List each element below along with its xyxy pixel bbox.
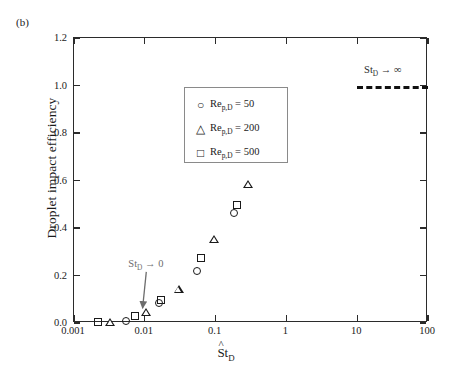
x-tick-mark bbox=[427, 315, 428, 321]
asymptote-dashed-line bbox=[357, 86, 428, 89]
legend-label-sub: p,D bbox=[222, 103, 233, 112]
x-axis-label-hat-accent: ^ bbox=[218, 338, 223, 350]
data-point-triangle bbox=[141, 308, 151, 316]
y-tick-mark bbox=[74, 227, 80, 228]
x-tick-label: 10 bbox=[351, 325, 362, 336]
annotation-zero-tail: → 0 bbox=[142, 258, 163, 269]
x-tick-label: 1 bbox=[283, 325, 288, 336]
x-tick-label: 100 bbox=[419, 325, 435, 336]
y-tick-mark bbox=[74, 180, 80, 181]
y-tick-label: 0.4 bbox=[37, 222, 67, 233]
y-tick-mark-right bbox=[420, 37, 426, 38]
x-tick-label: 0.1 bbox=[208, 325, 221, 336]
y-tick-mark bbox=[74, 322, 80, 323]
data-point-triangle bbox=[174, 285, 184, 293]
x-tick-mark-top bbox=[144, 38, 145, 44]
data-point-triangle bbox=[209, 235, 219, 243]
legend-marker-square-icon: □ bbox=[195, 147, 206, 159]
x-tick-mark bbox=[73, 315, 74, 321]
legend-label: Rep,D = 500 bbox=[210, 146, 259, 160]
data-point-triangle bbox=[243, 180, 253, 188]
x-tick-mark bbox=[357, 315, 358, 321]
annotation-inf-tail: → ∞ bbox=[378, 64, 401, 75]
y-tick-mark-right bbox=[420, 227, 426, 228]
legend-label-tail: = 50 bbox=[232, 98, 254, 109]
x-tick-mark-top bbox=[286, 38, 287, 44]
data-point-triangle bbox=[105, 318, 115, 326]
x-tick-mark bbox=[144, 315, 145, 321]
x-tick-mark bbox=[215, 315, 216, 321]
panel-label: (b) bbox=[16, 16, 29, 28]
legend-item-triangle: △Rep,D = 200 bbox=[195, 122, 259, 136]
legend-label-main: Re bbox=[210, 122, 222, 133]
annotation-inf-main: St bbox=[364, 64, 373, 75]
y-tick-label: 0.0 bbox=[37, 317, 67, 328]
x-axis-label: StD^ bbox=[0, 345, 452, 363]
x-tick-mark-top bbox=[73, 38, 74, 44]
annotation-limit-infinity: StD → ∞ bbox=[364, 64, 401, 78]
data-point-circle bbox=[193, 267, 201, 275]
x-axis-label-sub: D bbox=[228, 353, 234, 363]
y-tick-label: 1.2 bbox=[37, 32, 67, 43]
legend-label-tail: = 200 bbox=[232, 122, 259, 133]
legend-item-square: □Rep,D = 500 bbox=[195, 146, 259, 160]
x-tick-mark bbox=[286, 315, 287, 321]
y-tick-mark-right bbox=[420, 275, 426, 276]
x-tick-mark-top bbox=[427, 38, 428, 44]
annotation-limit-zero: StD → 0 bbox=[128, 258, 163, 272]
x-tick-mark-top bbox=[357, 38, 358, 44]
legend-item-circle: ○Rep,D = 50 bbox=[195, 98, 254, 112]
plot-area: StD → ∞ StD → 0 ○Rep,D = 50△Rep,D = 200□… bbox=[73, 37, 427, 322]
y-tick-mark bbox=[74, 37, 80, 38]
data-point-circle bbox=[230, 209, 238, 217]
legend-label: Rep,D = 50 bbox=[210, 98, 254, 112]
data-point-square bbox=[197, 254, 205, 262]
y-tick-mark bbox=[74, 85, 80, 86]
legend-box: ○Rep,D = 50△Rep,D = 200□Rep,D = 500 bbox=[184, 87, 288, 163]
y-tick-mark bbox=[74, 275, 80, 276]
legend-label-main: Re bbox=[210, 98, 222, 109]
legend-label-main: Re bbox=[210, 146, 222, 157]
legend-label-sub: p,D bbox=[222, 127, 233, 136]
data-point-circle bbox=[122, 317, 130, 325]
y-tick-mark-right bbox=[420, 180, 426, 181]
legend-label: Rep,D = 200 bbox=[210, 122, 259, 136]
legend-label-tail: = 500 bbox=[232, 146, 259, 157]
y-tick-mark bbox=[74, 132, 80, 133]
y-tick-label: 0.6 bbox=[37, 174, 67, 185]
y-tick-label: 0.8 bbox=[37, 127, 67, 138]
data-point-square bbox=[233, 201, 241, 209]
y-tick-label: 1.0 bbox=[37, 79, 67, 90]
legend-marker-triangle-icon: △ bbox=[195, 123, 206, 135]
data-point-square bbox=[157, 296, 165, 304]
x-axis-label-text: StD^ bbox=[217, 345, 234, 360]
legend-marker-circle-icon: ○ bbox=[195, 99, 206, 111]
x-tick-label: 0.01 bbox=[135, 325, 153, 336]
data-point-square bbox=[131, 312, 139, 320]
legend-label-sub: p,D bbox=[222, 151, 233, 160]
y-tick-mark-right bbox=[420, 322, 426, 323]
x-tick-mark-top bbox=[215, 38, 216, 44]
data-point-square bbox=[94, 318, 102, 326]
annotation-zero-main: St bbox=[128, 258, 137, 269]
y-tick-label: 0.2 bbox=[37, 269, 67, 280]
figure-panel-b: (b) Droplet impact efficiency StD → ∞ St… bbox=[0, 0, 452, 378]
y-tick-mark-right bbox=[420, 132, 426, 133]
